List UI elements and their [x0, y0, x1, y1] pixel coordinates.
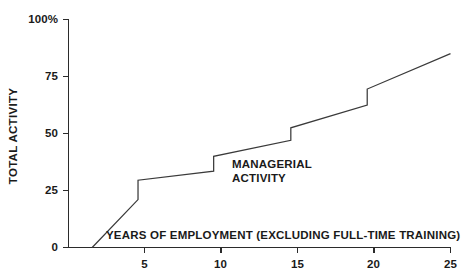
- x-tick-label-15: 15: [277, 258, 318, 270]
- y-tick-label-100: 100%: [0, 13, 58, 25]
- x-tick-label-5: 5: [124, 258, 165, 270]
- x-axis-title: YEARS OF EMPLOYMENT (EXCLUDING FULL-TIME…: [106, 229, 460, 241]
- x-tick-label-10: 10: [200, 258, 241, 270]
- y-axis-title: TOTAL ACTIVITY: [7, 76, 19, 196]
- total-activity-line: [92, 54, 450, 248]
- managerial-activity-annotation: MANAGERIAL ACTIVITY: [232, 158, 312, 185]
- y-axis-ticks: [63, 20, 69, 248]
- annotation-line-2: ACTIVITY: [232, 172, 312, 186]
- x-axis-ticks: [145, 248, 451, 254]
- x-tick-label-20: 20: [353, 258, 394, 270]
- y-tick-label-0: 0: [0, 241, 58, 253]
- x-tick-label-25: 25: [430, 258, 462, 270]
- chart-container: 100% 75 50 25 0 5 10 15 20 25 TOTAL ACTI…: [0, 0, 462, 278]
- annotation-line-1: MANAGERIAL: [232, 158, 312, 172]
